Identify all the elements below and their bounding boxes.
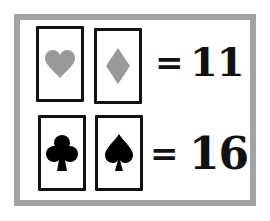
card-diamond [94,28,142,104]
equals-sign-row-2: = [150,136,179,170]
equals-sign-row-1: = [155,45,184,79]
row-1-value: 11 [190,42,244,82]
diamond-icon [105,47,131,85]
row-2-value: 16 [189,132,248,176]
card-spade [95,115,143,191]
spade-icon [104,133,134,173]
card-heart [36,26,84,102]
club-icon [46,133,78,173]
heart-icon [44,49,76,79]
card-club [38,115,86,191]
